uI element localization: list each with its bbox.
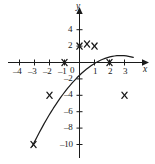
data-point-1-2 [92,43,97,49]
parabola-plot [0,0,155,164]
data-point--3--10 [31,141,36,147]
x-tick-label-1: 1 [93,67,97,76]
x-tick-label--3: –3 [28,67,37,76]
x-axis-label: x [143,65,147,75]
data-point-3--4 [122,92,127,98]
y-tick-label--8: –8 [64,123,73,132]
y-tick-label--2: –2 [64,74,73,83]
x-tick-label--2: –2 [43,67,52,76]
x-tick-label-3: 3 [123,67,127,76]
y-tick-label-4: 4 [68,25,72,34]
x-tick-label-2: 2 [108,67,112,76]
y-tick-label-2: 2 [68,41,72,50]
y-tick-label--10: –10 [60,140,73,149]
data-point--2--4 [47,92,52,98]
y-tick-label--6: –6 [64,107,73,116]
x-tick-label--4: –4 [13,67,22,76]
data-point-0_5-2_25 [84,41,89,47]
y-axis-label: y [76,2,80,12]
y-tick-label--4: –4 [64,90,73,99]
graph-figure: –4 –3 –2 –1 1 2 3 0 4 2 –2 –4 –6 –8 –10 … [0,0,155,164]
